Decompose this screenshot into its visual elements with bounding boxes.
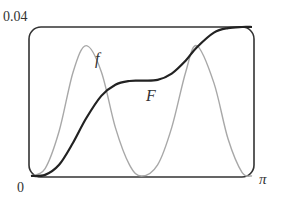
plot-frame xyxy=(29,27,254,177)
chart: 0.04 0 π f F xyxy=(0,0,283,204)
y-axis-top-label: 0.04 xyxy=(3,9,28,24)
origin-label: 0 xyxy=(17,180,24,195)
f-curve-label: f xyxy=(95,50,102,68)
x-axis-right-label: π xyxy=(259,171,267,187)
F-curve-label: F xyxy=(145,87,156,104)
